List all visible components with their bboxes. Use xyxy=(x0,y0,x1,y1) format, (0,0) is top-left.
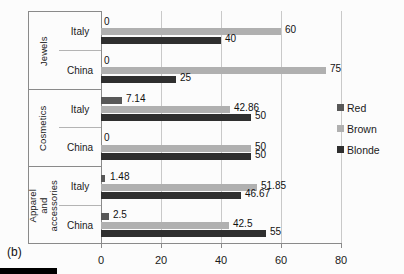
bar-red[interactable] xyxy=(101,97,122,104)
country-label: Italy xyxy=(71,26,89,37)
country-label-cosmetics-china: China xyxy=(59,127,101,167)
page-edge-artifact xyxy=(0,268,57,274)
country-label-jewels-china: China xyxy=(59,50,101,90)
bar-group-apparel-italy: 1.48 51.85 46.67 xyxy=(101,166,341,205)
x-tick-label: 80 xyxy=(335,254,347,266)
bar-blonde[interactable] xyxy=(101,192,241,199)
bar-value-label: 55 xyxy=(270,226,281,237)
bar-brown[interactable] xyxy=(101,67,326,74)
bar-value-label: 50 xyxy=(255,149,266,160)
bar-value-label: 2.5 xyxy=(113,209,127,220)
country-label: China xyxy=(67,220,93,231)
legend-item-brown[interactable]: Brown xyxy=(337,118,401,139)
category-group-cosmetics: Cosmetics xyxy=(28,89,59,167)
category-label: Cosmetics xyxy=(38,106,49,151)
bar-value-label: 40 xyxy=(225,33,236,44)
x-tick-60 xyxy=(281,243,282,248)
bar-value-label: 0 xyxy=(104,16,110,27)
x-tick-label: 0 xyxy=(98,254,104,266)
legend-label: Red xyxy=(347,102,366,114)
country-label: China xyxy=(67,142,93,153)
x-tick-40 xyxy=(221,243,222,248)
x-tick-80 xyxy=(341,243,342,248)
legend-swatch-icon xyxy=(337,104,344,111)
bar-group-cosmetics-china: 0 50 50 xyxy=(101,127,341,166)
x-tick-label: 40 xyxy=(215,254,227,266)
x-tick-0 xyxy=(101,243,102,248)
category-group-apparel: Apparel and accessories xyxy=(28,166,59,244)
category-axis-column: Jewels Cosmetics Apparel and accessories xyxy=(28,11,59,243)
legend-swatch-icon xyxy=(337,146,344,153)
country-label-apparel-china: China xyxy=(59,205,101,244)
legend-label: Blonde xyxy=(347,144,380,156)
bar-group-jewels-china: 0 75 25 xyxy=(101,50,341,89)
figure-panel: Jewels Cosmetics Apparel and accessories… xyxy=(0,0,404,274)
bar-group-jewels-italy: 0 60 40 xyxy=(101,11,341,50)
country-label: Italy xyxy=(71,104,89,115)
bar-value-label: 25 xyxy=(180,72,191,83)
legend: Red Brown Blonde xyxy=(337,97,401,160)
x-tick-label: 60 xyxy=(275,254,287,266)
category-group-jewels: Jewels xyxy=(28,11,59,90)
bar-blonde[interactable] xyxy=(101,114,251,121)
bar-red[interactable] xyxy=(101,213,109,220)
bar-brown[interactable] xyxy=(101,184,257,191)
country-label-cosmetics-italy: Italy xyxy=(59,89,101,128)
bar-value-label: 46.67 xyxy=(245,188,270,199)
country-axis-column: Italy China Italy China Italy China xyxy=(59,11,101,243)
x-tick-20 xyxy=(161,243,162,248)
bar-value-label: 42.5 xyxy=(233,218,252,229)
x-tick-label: 20 xyxy=(155,254,167,266)
country-label: Italy xyxy=(71,181,89,192)
bar-brown[interactable] xyxy=(101,106,230,113)
bar-value-label: 0 xyxy=(104,132,110,143)
bar-value-label: 0 xyxy=(104,55,110,66)
bar-blonde[interactable] xyxy=(101,153,251,160)
country-label-apparel-italy: Italy xyxy=(59,166,101,206)
bar-value-label: 50 xyxy=(255,110,266,121)
bar-blonde[interactable] xyxy=(101,76,176,83)
bar-brown[interactable] xyxy=(101,28,281,35)
bar-blonde[interactable] xyxy=(101,37,221,44)
legend-item-red[interactable]: Red xyxy=(337,97,401,118)
plot-area: 0 20 40 60 80 0 60 40 0 xyxy=(101,11,341,243)
bar-value-label: 1.48 xyxy=(110,171,129,182)
bar-group-apparel-china: 2.5 42.5 55 xyxy=(101,205,341,243)
bar-group-cosmetics-italy: 7.14 42.86 50 xyxy=(101,89,341,127)
bar-brown[interactable] xyxy=(101,222,229,229)
category-label: Jewels xyxy=(38,36,49,66)
country-label-jewels-italy: Italy xyxy=(59,11,101,51)
legend-label: Brown xyxy=(347,123,377,135)
figure-caption: (b) xyxy=(7,245,22,259)
legend-item-blonde[interactable]: Blonde xyxy=(337,139,401,160)
bar-brown[interactable] xyxy=(101,145,251,152)
bar-value-label: 75 xyxy=(330,63,341,74)
bar-value-label: 7.14 xyxy=(126,93,145,104)
category-label: Apparel and accessories xyxy=(28,180,60,231)
bar-red[interactable] xyxy=(101,175,105,182)
bar-value-label: 60 xyxy=(285,24,296,35)
bar-blonde[interactable] xyxy=(101,230,266,237)
country-label: China xyxy=(67,65,93,76)
legend-swatch-icon xyxy=(337,125,344,132)
